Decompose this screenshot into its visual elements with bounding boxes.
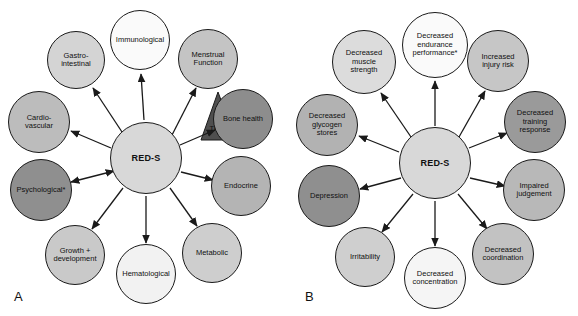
center-node-red-s[interactable]: RED-S (110, 122, 182, 194)
center-node-label: RED-S (418, 158, 451, 168)
connector-arrow (71, 171, 114, 182)
panel-b: Decreased endurance performance*Decrease… (289, 0, 578, 316)
node-label: Impaired judgement (514, 182, 553, 199)
node-bone-health[interactable]: Bone health (213, 89, 273, 149)
node-label: Decreased training response (515, 109, 555, 134)
node-irritability[interactable]: Irritability (335, 227, 395, 287)
node-label: Menstrual Function (190, 51, 227, 68)
node-endocrine[interactable]: Endocrine (211, 156, 271, 216)
panel-letter-a: A (14, 289, 23, 304)
connector-arrow (470, 178, 505, 186)
node-label: Depression (308, 192, 350, 200)
node-label: Growth + development (52, 247, 99, 264)
node-label: Gastro- intestinal (59, 52, 93, 69)
node-decreased-muscle-strength[interactable]: Decreased muscle strength (332, 30, 396, 94)
node-label: Cardio- vascular (23, 114, 55, 131)
node-cardio-vascular[interactable]: Cardio- vascular (8, 91, 70, 153)
node-label: Decreased muscle strength (344, 49, 384, 74)
node-depression[interactable]: Depression (298, 165, 360, 227)
node-gastro-intestinal[interactable]: Gastro- intestinal (47, 31, 105, 89)
node-hematological[interactable]: Hematological (116, 244, 176, 304)
node-label: Hematological (120, 270, 172, 278)
node-growth-development[interactable]: Growth + development (45, 225, 105, 285)
node-impaired-judgement[interactable]: Impaired judgement (503, 159, 565, 221)
connector-arrow (93, 88, 122, 132)
node-label: Irritability (348, 253, 382, 261)
node-decreased-coordination[interactable]: Decreased coordination (472, 223, 534, 285)
node-increased-injury-risk[interactable]: Increased injury risk (467, 30, 529, 92)
connector-arrow (181, 172, 213, 180)
connector-arrow (171, 88, 196, 137)
node-label: Immunological (114, 36, 166, 44)
connector-arrow (170, 188, 197, 226)
node-menstrual-function[interactable]: Menstrual Function (178, 29, 238, 89)
node-label: Metabolic (194, 249, 230, 257)
node-label: Psychological* (15, 186, 68, 194)
node-label: Decreased glycogen stores (307, 112, 347, 137)
node-label: Endocrine (222, 182, 260, 190)
connector-arrow (360, 178, 401, 189)
connector-arrow (469, 133, 507, 148)
panel-letter-b: B (305, 289, 314, 304)
center-node-label: RED-S (129, 153, 162, 163)
connector-arrow (459, 91, 485, 137)
node-decreased-glycogen-stores[interactable]: Decreased glycogen stores (296, 94, 358, 156)
node-immunological[interactable]: Immunological (110, 10, 170, 70)
node-decreased-concentration[interactable]: Decreased concentration (404, 247, 466, 309)
node-decreased-endurance-performance[interactable]: Decreased endurance performance* (402, 12, 468, 78)
node-psychological[interactable]: Psychological* (10, 159, 72, 221)
panel-a: TriadImmunologicalGastro- intestinalCard… (0, 0, 289, 316)
node-metabolic[interactable]: Metabolic (182, 223, 242, 283)
node-label: Increased injury risk (480, 53, 517, 70)
node-label: Decreased endurance performance* (410, 32, 459, 57)
node-label: Bone health (221, 115, 265, 123)
connector-arrow (381, 93, 411, 137)
connector-arrow (359, 136, 399, 152)
connector-arrow (141, 74, 144, 120)
connector-arrow (92, 188, 123, 229)
connector-arrow (382, 194, 413, 232)
figure-canvas: TriadImmunologicalGastro- intestinalCard… (0, 0, 578, 316)
center-node-red-s[interactable]: RED-S (399, 127, 471, 199)
connector-arrow (71, 131, 111, 148)
node-label: Decreased concentration (410, 270, 459, 287)
node-label: Decreased coordination (481, 246, 526, 263)
connector-arrow (458, 194, 487, 229)
node-decreased-training-response[interactable]: Decreased training response (504, 91, 566, 153)
